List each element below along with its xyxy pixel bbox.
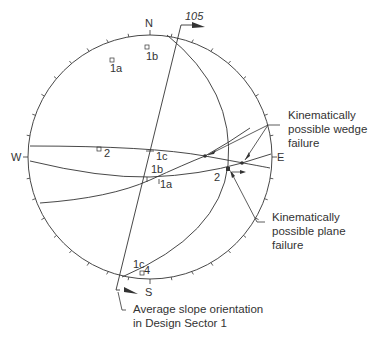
great-circle-1a (40, 128, 250, 203)
svg-text:2: 2 (104, 147, 110, 159)
pole-1a: 1a (110, 58, 123, 74)
label-1a: 1a (160, 178, 173, 190)
svg-text:possible wedge: possible wedge (288, 123, 367, 135)
wedge-annotation: Kinematically possible wedge failure (288, 109, 367, 149)
wedge-intersection-1 (203, 154, 207, 158)
svg-text:Kinematically: Kinematically (272, 211, 340, 223)
west-label: W (11, 151, 22, 163)
label-1c: 1c (156, 150, 168, 162)
wedge-intersection-2 (240, 161, 244, 165)
svg-text:failure: failure (272, 239, 303, 251)
svg-text:possible plane: possible plane (272, 225, 346, 237)
degree-ticks (23, 30, 277, 284)
plane-annotation: Kinematically possible plane failure (272, 211, 346, 251)
svg-text:1b: 1b (146, 50, 158, 62)
east-label: E (277, 151, 284, 163)
label-1c-bottom: 1c (133, 258, 145, 270)
slope-dip-direction-label: 105 (185, 10, 204, 22)
svg-text:failure: failure (288, 137, 319, 149)
slope-annotation: Average slope orientation in Design Sect… (133, 303, 263, 329)
svg-text:Kinematically: Kinematically (288, 109, 356, 121)
north-label: N (145, 17, 153, 29)
svg-text:4: 4 (144, 264, 150, 276)
plane-leader (230, 170, 265, 222)
great-circle-1c (30, 146, 270, 168)
plane-failure-point (226, 167, 230, 171)
svg-text:in Design Sector 1: in Design Sector 1 (133, 317, 227, 329)
stereonet-diagram: N E S W 105 1a 1b 2 4 1c 1b 1a 2 1c (0, 0, 379, 342)
primitive-circle (28, 35, 272, 279)
south-label: S (145, 286, 152, 298)
label-2: 2 (214, 171, 220, 183)
svg-text:Average slope orientation: Average slope orientation (133, 303, 263, 315)
dip-arrow-bottom-icon (124, 287, 138, 294)
dip-arrow-top-icon (192, 22, 205, 28)
pole-1b: 1b (145, 45, 158, 62)
label-1b: 1b (151, 163, 163, 175)
great-circle-2 (122, 35, 229, 277)
slope-leader (118, 292, 126, 310)
pole-2: 2 (97, 147, 110, 159)
svg-text:1a: 1a (110, 62, 123, 74)
